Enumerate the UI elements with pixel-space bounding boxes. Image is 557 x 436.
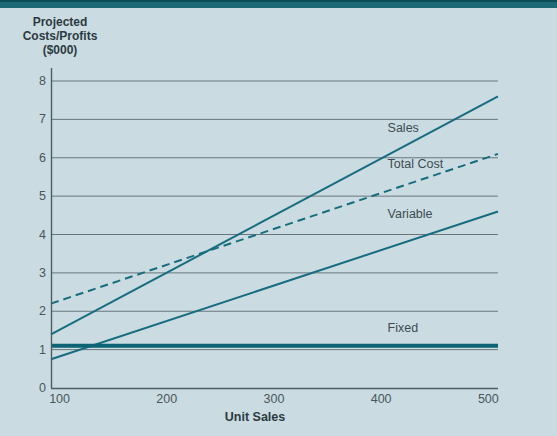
total-cost-line (51, 154, 498, 304)
breakeven-chart-plot (0, 0, 557, 436)
y-tick-label-6: 6 (20, 151, 46, 165)
x-tick-label-400: 400 (359, 392, 403, 406)
y-tick-label-3: 3 (20, 266, 46, 280)
y-tick-label-4: 4 (20, 228, 46, 242)
y-tick-label-2: 2 (20, 304, 46, 318)
x-tick-label-300: 300 (252, 392, 296, 406)
x-tick-label-100: 100 (38, 392, 82, 406)
variable-line (51, 211, 498, 359)
series-label-sales: Sales (388, 121, 419, 136)
breakeven-chart-figure: Projected Costs/Profits ($000) 012345678… (0, 0, 557, 436)
series-label-total-cost: Total Cost (388, 157, 444, 172)
y-tick-label-5: 5 (20, 189, 46, 203)
series-label-fixed: Fixed (388, 321, 419, 336)
x-axis-title: Unit Sales (30, 410, 480, 424)
y-tick-label-8: 8 (20, 74, 46, 88)
series-label-variable: Variable (388, 207, 433, 222)
y-tick-label-7: 7 (20, 112, 46, 126)
y-tick-label-1: 1 (20, 343, 46, 357)
x-tick-label-500: 500 (466, 392, 510, 406)
x-tick-label-200: 200 (145, 392, 189, 406)
